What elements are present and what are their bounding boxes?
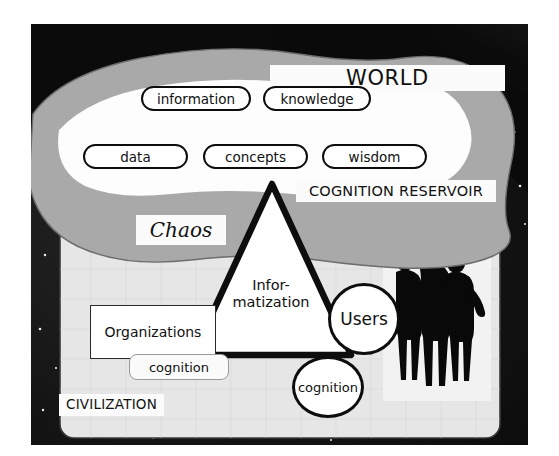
circle-users-cognition[interactable]: cognition <box>292 356 364 418</box>
label-chaos: Chaos <box>136 215 226 245</box>
circle-users[interactable]: Users <box>328 283 400 355</box>
triangle-label-informatization: Infor- matization <box>226 277 316 311</box>
pill-data[interactable]: data <box>83 144 188 169</box>
label-cognition-reservoir: COGNITION RESERVOIR <box>296 180 496 202</box>
box-organizations-cognition[interactable]: cognition <box>129 354 229 380</box>
triangle-label-line1: Infor- <box>226 277 316 294</box>
pill-wisdom[interactable]: wisdom <box>322 144 427 169</box>
label-civilization: CIVILIZATION <box>59 394 164 416</box>
pill-knowledge[interactable]: knowledge <box>263 86 371 111</box>
triangle-label-line2: matization <box>226 294 316 311</box>
box-organizations[interactable]: Organizations <box>90 305 216 359</box>
diagram-figure: WORLD COGNITION RESERVOIR Chaos CIVILIZA… <box>31 24 528 445</box>
page-top-strip <box>0 0 559 22</box>
pill-concepts[interactable]: concepts <box>203 144 308 169</box>
pill-information[interactable]: information <box>141 86 251 111</box>
